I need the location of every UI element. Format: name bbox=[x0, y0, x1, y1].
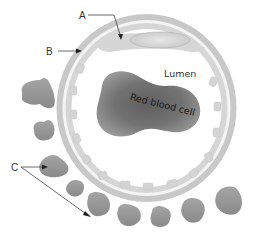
pericyte-bottom-center-left bbox=[117, 204, 141, 226]
pericyte-bottom-right bbox=[181, 198, 205, 223]
capillary-diagram: Red blood cell Lumen A B C bbox=[0, 0, 270, 238]
label-c: C bbox=[11, 162, 18, 173]
label-b: B bbox=[46, 46, 53, 57]
pericyte-right bbox=[215, 186, 242, 214]
lumen-label: Lumen bbox=[164, 68, 196, 79]
endothelial-nucleus bbox=[130, 32, 190, 48]
pericyte-left-middle bbox=[34, 120, 55, 141]
label-a: A bbox=[79, 10, 86, 21]
pericyte-bottom-left-small bbox=[66, 180, 84, 197]
pericyte-bottom-center bbox=[151, 206, 171, 227]
pericyte-left-upper bbox=[22, 78, 55, 108]
pericyte-bottom-left bbox=[87, 192, 110, 216]
